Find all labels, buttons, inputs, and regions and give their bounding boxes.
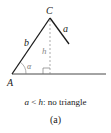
label-alpha: α xyxy=(27,62,32,71)
label-b: b xyxy=(24,37,29,48)
right-angle-marker xyxy=(43,68,50,74)
caption-text: : no triangle xyxy=(43,97,87,107)
caption: a < h: no triangle xyxy=(0,97,111,107)
label-A: A xyxy=(6,77,14,88)
panel-label: (a) xyxy=(0,114,111,125)
label-h: h xyxy=(42,46,47,56)
label-C: C xyxy=(46,5,53,16)
caption-less-than: < xyxy=(29,97,39,107)
label-a: a xyxy=(63,23,68,34)
angle-alpha-arc xyxy=(20,62,26,74)
